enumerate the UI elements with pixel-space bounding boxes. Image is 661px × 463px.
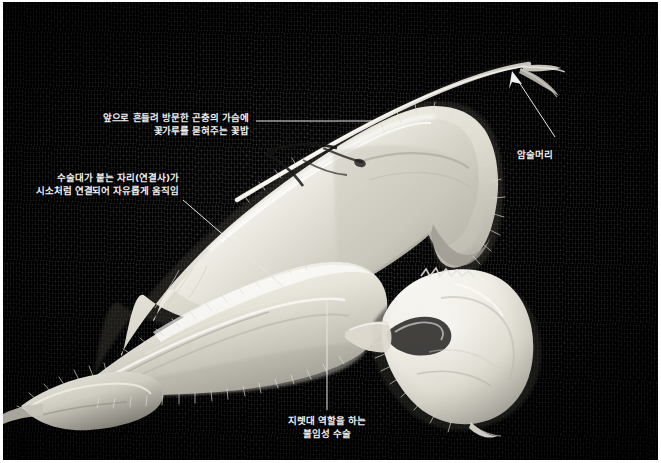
flower-specimen [3,2,658,460]
specimen-illustration [3,2,658,460]
calyx-and-pedicel [3,372,163,431]
photograph-plate: 앞으로 흔들려 방문한 곤충의 가슴에 꽃가루를 묻혀주는 꽃밥 수술대가 붙는… [3,2,658,460]
figure-root: 앞으로 흔들려 방문한 곤충의 가슴에 꽃가루를 묻혀주는 꽃밥 수술대가 붙는… [0,0,661,463]
